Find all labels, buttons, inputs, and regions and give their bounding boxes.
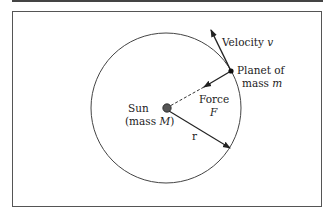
- force-symbol: F: [209, 106, 218, 118]
- radius-label: r: [192, 130, 198, 142]
- velocity-label: Velocity v: [221, 36, 273, 48]
- sun-dot: [163, 104, 171, 112]
- force-label: Force: [199, 93, 229, 105]
- orbit-diagram: Velocity v Planet of mass m Force F Sun …: [0, 0, 332, 217]
- planet-label-line1: Planet of: [237, 64, 286, 76]
- planet-dot: [228, 68, 233, 73]
- radius-arrow: [169, 111, 230, 148]
- force-arrow: [204, 71, 231, 87]
- planet-label-line2: mass m: [242, 77, 282, 89]
- sun-mass-label: (mass M): [125, 115, 174, 127]
- sun-label: Sun: [128, 102, 149, 114]
